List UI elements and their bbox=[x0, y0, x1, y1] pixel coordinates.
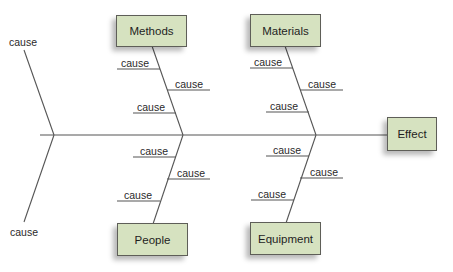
tail-cause-top: cause bbox=[9, 36, 37, 48]
category-box-methods: Methods bbox=[116, 15, 187, 47]
materials-cause-3: cause bbox=[270, 100, 298, 112]
equipment-cause-3: cause bbox=[258, 188, 286, 200]
category-box-people: People bbox=[117, 223, 188, 256]
category-box-equipment: Equipment bbox=[250, 222, 321, 255]
tail-bottom-line bbox=[24, 135, 54, 222]
people-cause-2: cause bbox=[177, 167, 205, 179]
materials-cause-2: cause bbox=[308, 78, 336, 90]
methods-cause-2: cause bbox=[175, 78, 203, 90]
effect-box: Effect bbox=[387, 117, 437, 151]
equipment-cause-2: cause bbox=[310, 166, 338, 178]
equipment-cause-1: cause bbox=[273, 144, 301, 156]
tail-cause-bottom: cause bbox=[10, 226, 38, 238]
category-box-materials: Materials bbox=[250, 14, 321, 47]
people-cause-1: cause bbox=[140, 145, 168, 157]
people-cause-3: cause bbox=[124, 189, 152, 201]
materials-cause-1: cause bbox=[254, 56, 282, 68]
methods-cause-3: cause bbox=[137, 101, 165, 113]
tail-top-line bbox=[24, 50, 54, 135]
methods-cause-1: cause bbox=[121, 57, 149, 69]
fishbone-lines bbox=[0, 0, 453, 272]
